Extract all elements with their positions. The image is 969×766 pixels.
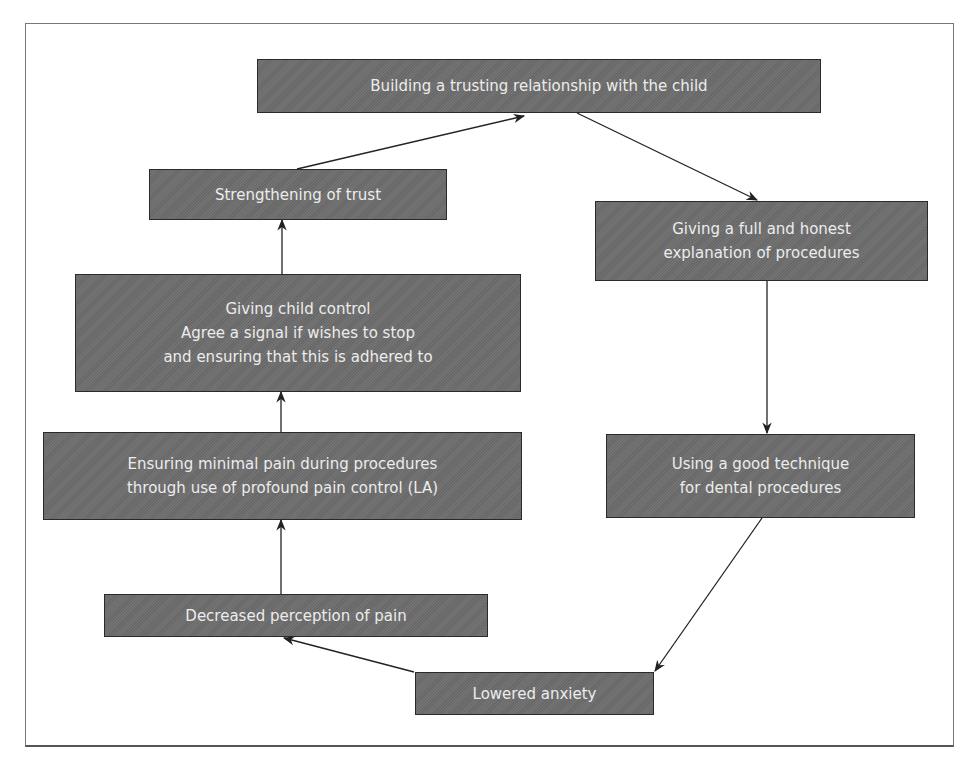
arrow-n1-to-n2 — [577, 113, 757, 200]
node-good-technique: Using a good technique for dental proced… — [606, 434, 915, 518]
arrow-n4-to-n5 — [284, 638, 414, 672]
node-lowered-anxiety: Lowered anxiety — [415, 672, 654, 715]
node-full-explanation: Giving a full and honest explanation of … — [595, 201, 928, 281]
node-decreased-pain-perception: Decreased perception of pain — [104, 594, 488, 637]
node-minimal-pain: Ensuring minimal pain during procedures … — [43, 432, 522, 520]
arrow-n8-to-n1 — [297, 116, 524, 169]
node-building-trust: Building a trusting relationship with th… — [257, 59, 821, 113]
node-child-control: Giving child control Agree a signal if w… — [75, 274, 521, 392]
node-strengthening-trust: Strengthening of trust — [149, 169, 447, 220]
arrow-n3-to-n4 — [655, 518, 762, 671]
